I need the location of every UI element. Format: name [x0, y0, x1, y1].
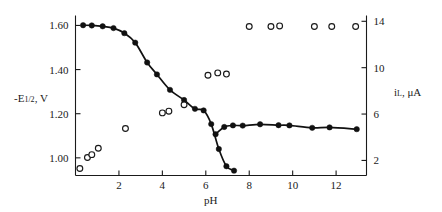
data-point-open [329, 24, 335, 30]
data-point-open [205, 72, 211, 78]
chart-figure: 246810121.001.201.401.60261014 -E1/2, V … [0, 0, 442, 212]
left-axis-unit: , V [35, 92, 48, 104]
y2-tick-label: 14 [374, 15, 386, 27]
x-tick-label: 6 [203, 179, 209, 191]
data-point-filled [80, 23, 85, 28]
data-point-filled [192, 106, 197, 111]
data-point-filled [257, 122, 262, 127]
x-tick-label: 8 [246, 179, 252, 191]
data-point-filled [230, 123, 235, 128]
x-tick-label: 12 [331, 179, 342, 191]
data-point-filled [144, 60, 149, 65]
data-point-open [246, 24, 252, 30]
data-point-filled [122, 30, 127, 35]
data-point-filled [167, 87, 172, 92]
x-tick-label: 10 [287, 179, 299, 191]
y-tick-label: 1.40 [49, 64, 69, 76]
data-point-open [123, 126, 129, 132]
y2-tick-label: 10 [374, 62, 386, 74]
series-group [77, 23, 359, 174]
data-point-open [166, 108, 172, 114]
data-point-open [181, 102, 187, 108]
series-curve-0 [83, 25, 234, 170]
data-point-filled [276, 122, 281, 127]
data-point-filled [240, 123, 245, 128]
data-point-filled [201, 108, 206, 113]
data-point-filled [231, 168, 236, 173]
data-point-filled [111, 25, 116, 30]
data-point-filled [224, 164, 229, 169]
data-point-filled [222, 124, 227, 129]
left-axis-title: -E1/2, V [14, 88, 48, 106]
left-axis-subscript: 1/2 [24, 95, 34, 104]
data-point-open [89, 152, 95, 158]
axes-group [76, 16, 367, 176]
x-tick-label: 2 [116, 179, 122, 191]
y-tick-label: 1.20 [49, 108, 69, 120]
data-point-filled [354, 126, 359, 131]
data-point-open [159, 110, 165, 116]
data-point-open [268, 24, 274, 30]
y2-tick-label: 6 [374, 108, 380, 120]
data-point-open [353, 24, 359, 30]
y-tick-label: 1.00 [49, 152, 69, 164]
right-axis-unit: , μA [402, 86, 421, 98]
data-point-open [311, 24, 317, 30]
data-point-filled [100, 24, 105, 29]
data-point-filled [89, 23, 94, 28]
data-point-open [215, 70, 221, 76]
right-axis-title: iL, μA [394, 82, 421, 100]
data-point-open [224, 71, 230, 77]
tick-group [76, 21, 367, 175]
data-point-filled [209, 121, 214, 126]
tick-label-group: 246810121.001.201.401.60261014 [49, 15, 385, 190]
data-point-open [95, 145, 101, 151]
x-axis-title: pH [204, 190, 217, 208]
data-point-filled [327, 125, 332, 130]
data-point-filled [213, 132, 218, 137]
series-curve-1 [216, 124, 357, 134]
data-point-filled [216, 146, 221, 151]
data-point-filled [154, 72, 159, 77]
x-tick-label: 4 [160, 179, 166, 191]
data-point-filled [310, 125, 315, 130]
y-tick-label: 1.60 [49, 19, 69, 31]
y2-tick-label: 2 [374, 154, 380, 166]
data-point-open [277, 23, 283, 29]
data-point-filled [133, 40, 138, 45]
data-point-filled [287, 123, 292, 128]
chart-canvas: 246810121.001.201.401.60261014 [0, 0, 442, 212]
data-point-open [77, 166, 83, 172]
